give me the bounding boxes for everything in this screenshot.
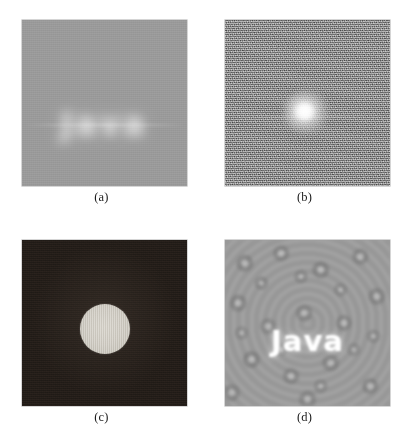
panel-c-caption: (c) [0, 410, 203, 425]
figure-low-pass-filtering: Java Java (a) (b) (c) [0, 0, 406, 440]
panel-d-caption: (d) [203, 410, 406, 425]
panel-b: (b) [203, 0, 406, 220]
panel-c: (c) [0, 220, 203, 440]
panel-d-ringing-texture-secondary [225, 240, 390, 406]
panel-c-image [22, 240, 187, 406]
panel-a-caption: (a) [0, 190, 203, 205]
panel-b-image [225, 20, 390, 186]
panel-d-text: Java [225, 324, 390, 358]
panel-a-grain [22, 20, 187, 186]
panel-b-dc-peak [295, 103, 315, 120]
panel-a: Java Java (a) [0, 0, 203, 220]
panel-a-image: Java Java [22, 20, 187, 186]
panel-a-horizontal-streak [22, 124, 187, 126]
panel-c-disk-striations [80, 304, 130, 354]
panel-b-caption: (b) [203, 190, 406, 205]
panel-d-image: Java Java [225, 240, 390, 406]
panel-d: Java Java (d) [203, 220, 406, 440]
